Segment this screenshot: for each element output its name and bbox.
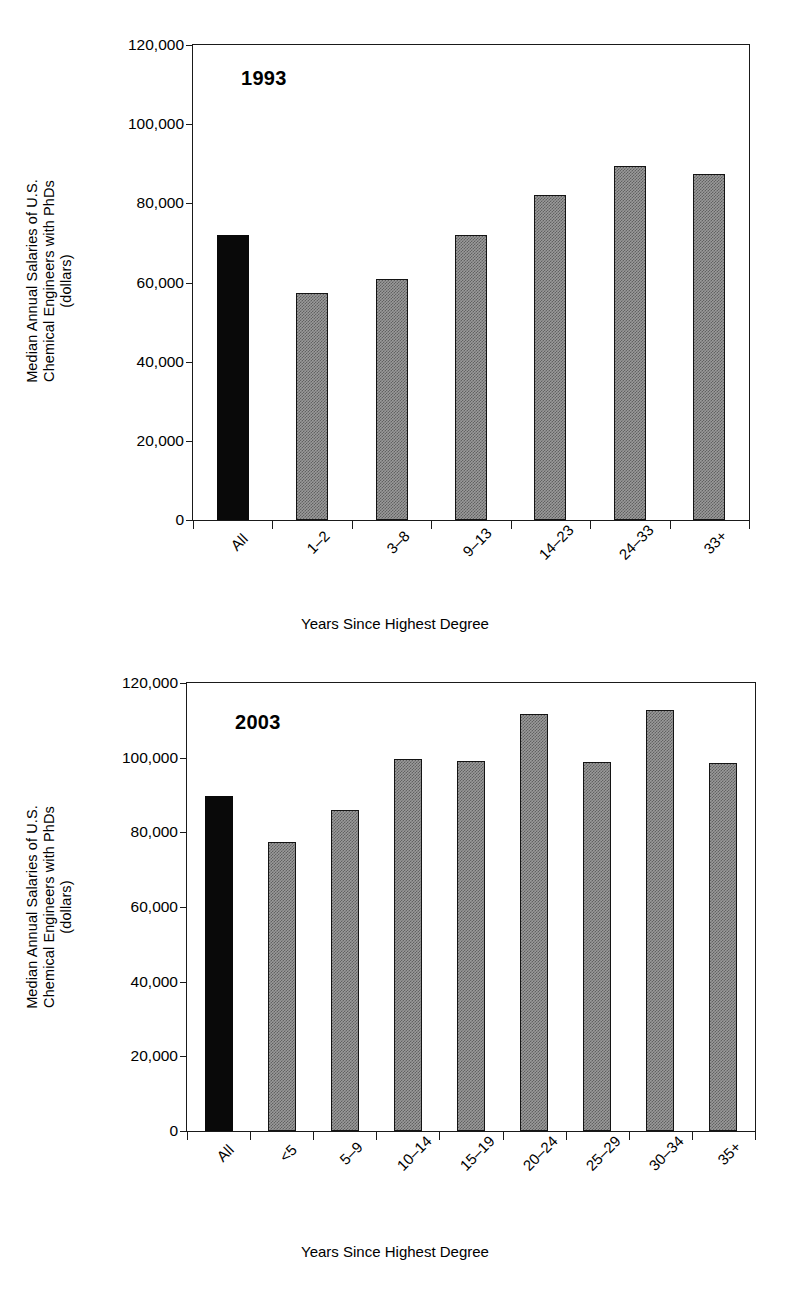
y-tick-mark bbox=[180, 1056, 187, 1057]
x-tick-label: 30–34 bbox=[646, 1132, 688, 1174]
y-tick-label: 20,000 bbox=[131, 1047, 187, 1065]
y-tick-label: 120,000 bbox=[122, 674, 187, 692]
y-tick-mark bbox=[186, 283, 193, 284]
y-tick-label: 100,000 bbox=[128, 115, 193, 133]
bar-slot bbox=[313, 683, 376, 1131]
x-tick-label: 25–29 bbox=[582, 1132, 624, 1174]
bar bbox=[520, 714, 548, 1131]
bar bbox=[394, 759, 422, 1131]
y-tick-mark bbox=[180, 907, 187, 908]
x-tick-label: 10–14 bbox=[393, 1132, 435, 1174]
bar-slot bbox=[272, 45, 351, 520]
bar bbox=[693, 174, 725, 520]
y-tick-mark bbox=[180, 832, 187, 833]
bar-slot bbox=[692, 683, 755, 1131]
bar bbox=[457, 761, 485, 1131]
bar bbox=[217, 235, 249, 520]
y-tick-mark bbox=[186, 362, 193, 363]
x-tick-label: 5–9 bbox=[336, 1138, 366, 1168]
x-tick-mark bbox=[755, 1131, 756, 1140]
bar bbox=[709, 763, 737, 1131]
x-tick-label: 1–2 bbox=[303, 527, 333, 557]
bar-slot bbox=[629, 683, 692, 1131]
y-tick-mark bbox=[180, 758, 187, 759]
bar bbox=[268, 842, 296, 1131]
bar-slot bbox=[439, 683, 502, 1131]
bar bbox=[534, 195, 566, 520]
x-tick-label: 33+ bbox=[700, 527, 730, 557]
y-axis-title-line1: Median Annual Salaries of U.S. bbox=[24, 179, 41, 383]
bar-slot bbox=[193, 45, 272, 520]
bar bbox=[646, 710, 674, 1131]
y-tick-label: 100,000 bbox=[122, 749, 187, 767]
bar-slot bbox=[376, 683, 439, 1131]
y-tick-mark bbox=[186, 441, 193, 442]
bar bbox=[205, 796, 233, 1131]
y-tick-label: 60,000 bbox=[137, 274, 193, 292]
bars-1993 bbox=[193, 45, 749, 520]
bar-slot bbox=[590, 45, 669, 520]
x-tick-label: 20–24 bbox=[519, 1132, 561, 1174]
y-axis-title-line2: Chemical Engineers with PhDs bbox=[41, 805, 58, 1009]
bars-2003 bbox=[187, 683, 755, 1131]
y-tick-label: 120,000 bbox=[128, 36, 193, 54]
bar-slot bbox=[352, 45, 431, 520]
x-axis-labels-1993: All1–23–89–1314–2324–3333+ bbox=[193, 520, 749, 615]
y-tick-mark bbox=[186, 45, 193, 46]
bar-slot bbox=[511, 45, 590, 520]
x-tick-label: 15–19 bbox=[456, 1132, 498, 1174]
x-tick-mark bbox=[749, 520, 750, 529]
y-tick-label: 60,000 bbox=[131, 898, 187, 916]
bar-slot bbox=[431, 45, 510, 520]
x-tick-label: <5 bbox=[276, 1141, 300, 1165]
figure-page: Median Annual Salaries of U.S. Chemical … bbox=[0, 0, 790, 1296]
y-axis-title-line1: Median Annual Salaries of U.S. bbox=[24, 805, 41, 1009]
chart-1993: Median Annual Salaries of U.S. Chemical … bbox=[0, 0, 790, 650]
y-tick-label: 80,000 bbox=[131, 823, 187, 841]
x-tick-label: All bbox=[213, 1141, 237, 1165]
y-tick-label: 80,000 bbox=[137, 194, 193, 212]
x-tick-label: 35+ bbox=[714, 1138, 744, 1168]
bar-slot bbox=[670, 45, 749, 520]
y-axis-title-line3: (dollars) bbox=[58, 179, 75, 383]
x-tick-label: 3–8 bbox=[383, 527, 413, 557]
bar bbox=[331, 810, 359, 1131]
bar bbox=[296, 293, 328, 520]
x-tick-label: 9–13 bbox=[459, 524, 495, 560]
y-tick-label: 40,000 bbox=[131, 973, 187, 991]
y-tick-label: 20,000 bbox=[137, 432, 193, 450]
bar bbox=[455, 235, 487, 520]
y-tick-mark bbox=[186, 203, 193, 204]
x-axis-labels-2003: All<55–910–1415–1920–2425–2930–3435+ bbox=[187, 1131, 755, 1226]
bar bbox=[614, 166, 646, 520]
bar-slot bbox=[503, 683, 566, 1131]
bar-slot bbox=[250, 683, 313, 1131]
bar bbox=[583, 762, 611, 1131]
y-tick-mark bbox=[180, 683, 187, 684]
y-axis-title-line3: (dollars) bbox=[58, 805, 75, 1009]
y-axis-title-2003: Median Annual Salaries of U.S. Chemical … bbox=[26, 672, 72, 1142]
x-axis-title-1993: Years Since Highest Degree bbox=[0, 615, 790, 632]
x-tick-label: 24–33 bbox=[615, 521, 657, 563]
bar-slot bbox=[566, 683, 629, 1131]
y-tick-mark bbox=[180, 982, 187, 983]
x-tick-label: 14–23 bbox=[536, 521, 578, 563]
bar-slot bbox=[187, 683, 250, 1131]
bar bbox=[376, 279, 408, 520]
y-axis-title-line2: Chemical Engineers with PhDs bbox=[41, 179, 58, 383]
plot-area-2003: 2003 020,00040,00060,00080,000100,000120… bbox=[186, 682, 756, 1132]
plot-area-1993: 1993 020,00040,00060,00080,000100,000120… bbox=[192, 44, 750, 521]
y-tick-mark bbox=[186, 520, 193, 521]
y-tick-mark bbox=[180, 1131, 187, 1132]
x-tick-label: All bbox=[227, 530, 251, 554]
y-tick-label: 40,000 bbox=[137, 353, 193, 371]
x-axis-title-2003: Years Since Highest Degree bbox=[0, 1243, 790, 1260]
y-tick-mark bbox=[186, 124, 193, 125]
y-axis-title-1993: Median Annual Salaries of U.S. Chemical … bbox=[26, 46, 72, 516]
chart-2003: Median Annual Salaries of U.S. Chemical … bbox=[0, 646, 790, 1296]
